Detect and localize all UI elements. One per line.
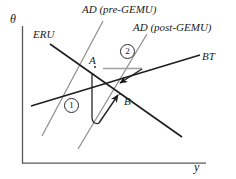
point-b-marker (119, 93, 121, 95)
curve-ad-post-gemu (78, 34, 147, 149)
curve-eru (50, 44, 182, 137)
annotation-stage-one: 1 (64, 98, 79, 113)
annotation-stage-two: 2 (120, 44, 135, 59)
point-a-marker (94, 66, 96, 68)
label-y-axis: y (194, 161, 199, 173)
label-point-b: B (124, 96, 131, 107)
label-ad-post-gemu: AD (post-GEMU) (133, 22, 212, 33)
axes-group (22, 26, 206, 164)
label-point-a: A (89, 55, 96, 66)
economics-diagram: AD (pre-GEMU) AD (post-GEMU) ERU BT A B … (0, 0, 236, 179)
label-bt: BT (202, 51, 215, 62)
label-theta-axis: θ (10, 13, 16, 25)
label-ad-pre-gemu: AD (pre-GEMU) (82, 4, 156, 15)
adjustment-arrow-down-to-b (120, 69, 142, 83)
label-eru: ERU (33, 29, 54, 40)
